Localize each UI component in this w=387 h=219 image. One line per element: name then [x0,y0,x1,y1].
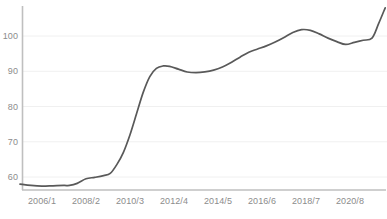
x-tick-label-2018-7: 2018/7 [281,196,331,206]
y-tick-label-80: 80 [0,102,18,112]
gridlines [23,36,387,177]
x-tick-label-2012-4: 2012/4 [149,196,199,206]
x-tick-label-2006-1: 2006/1 [17,196,67,206]
x-tick-label-2010-3: 2010/3 [105,196,155,206]
x-tick-label-2008-2: 2008/2 [61,196,111,206]
chart-canvas [0,0,387,219]
y-tick-label-100: 100 [0,31,18,41]
y-tick-label-70: 70 [0,137,18,147]
x-tick-label-2014-5: 2014/5 [193,196,243,206]
y-tick-label-60: 60 [0,172,18,182]
line-chart: 60708090100 2006/12008/22010/32012/42014… [0,0,387,219]
y-tick-label-90: 90 [0,66,18,76]
x-tick-label-2016-6: 2016/6 [237,196,287,206]
x-tick-label-2020-8: 2020/8 [325,196,375,206]
data-series-line [20,8,385,186]
